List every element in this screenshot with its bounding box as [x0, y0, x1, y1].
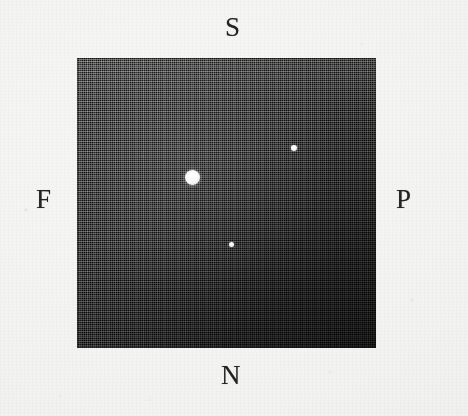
orientation-label-south: S	[225, 14, 241, 41]
star-marker-secondary	[291, 145, 297, 151]
star-marker-tertiary	[229, 242, 234, 247]
halftone-screen-overlay	[77, 58, 376, 348]
halftone-screen-texture	[77, 58, 376, 348]
plate-grain-speckle	[77, 58, 376, 348]
orientation-label-north: N	[221, 362, 241, 389]
orientation-label-preceding: P	[396, 186, 412, 213]
figure-root: S N F P	[0, 0, 468, 416]
photographic-plate-field	[77, 58, 376, 348]
star-marker-primary	[185, 170, 200, 185]
orientation-label-following: F	[36, 186, 52, 213]
plate-density-gradient	[77, 58, 376, 348]
plate-border	[77, 58, 376, 348]
plate-vignette	[77, 58, 376, 348]
